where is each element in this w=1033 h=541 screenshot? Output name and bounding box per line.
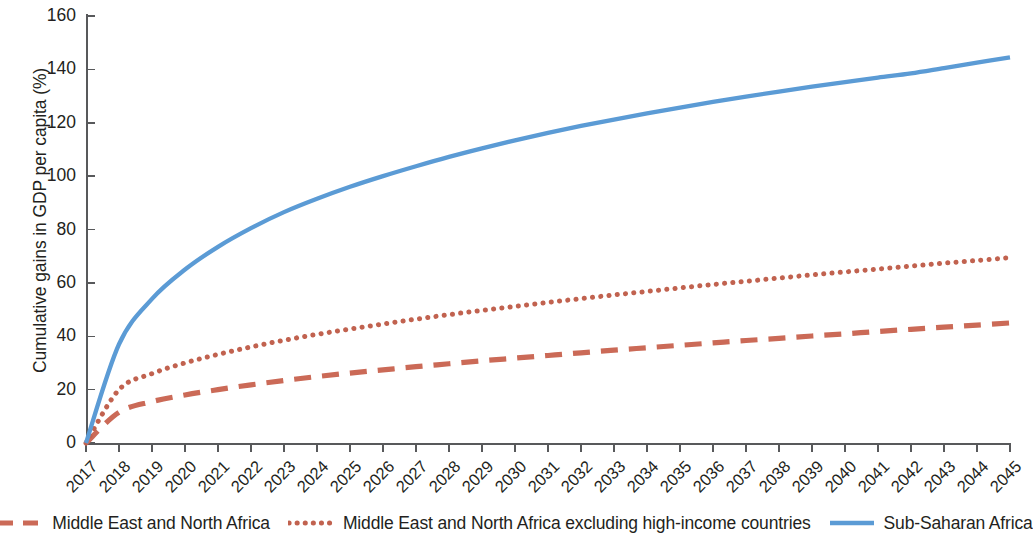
x-tick-2044 bbox=[976, 443, 978, 452]
y-tick-label-100: 100 bbox=[30, 165, 76, 186]
series-line-2 bbox=[86, 57, 1010, 443]
dashed-line-swatch bbox=[0, 516, 43, 530]
x-tick-2038 bbox=[778, 443, 780, 452]
x-tick-2017 bbox=[85, 443, 87, 452]
x-tick-2030 bbox=[514, 443, 516, 452]
y-tick-label-160: 160 bbox=[30, 5, 76, 26]
dotted-line-swatch bbox=[288, 516, 334, 530]
y-tick-label-140: 140 bbox=[30, 58, 76, 79]
legend-label-0: Middle East and North Africa bbox=[52, 513, 270, 534]
x-tick-2025 bbox=[349, 443, 351, 452]
y-tick-40 bbox=[86, 336, 95, 338]
legend-item-0[interactable]: Middle East and North Africa bbox=[0, 513, 270, 534]
y-tick-160 bbox=[86, 15, 95, 17]
x-tick-2045 bbox=[1009, 443, 1011, 452]
x-tick-2042 bbox=[910, 443, 912, 452]
legend-label-1: Middle East and North Africa excluding h… bbox=[343, 513, 811, 534]
x-tick-2035 bbox=[679, 443, 681, 452]
y-tick-60 bbox=[86, 282, 95, 284]
y-tick-80 bbox=[86, 229, 95, 231]
y-tick-0 bbox=[86, 442, 95, 444]
legend-item-2[interactable]: Sub-Saharan Africa bbox=[829, 513, 1033, 534]
y-tick-100 bbox=[86, 175, 95, 177]
solid-line-swatch bbox=[829, 516, 875, 530]
legend-label-2: Sub-Saharan Africa bbox=[884, 513, 1033, 534]
x-tick-2032 bbox=[580, 443, 582, 452]
y-tick-label-0: 0 bbox=[30, 432, 76, 453]
x-tick-2019 bbox=[151, 443, 153, 452]
x-tick-2024 bbox=[316, 443, 318, 452]
y-tick-label-60: 60 bbox=[30, 272, 76, 293]
x-tick-2022 bbox=[250, 443, 252, 452]
x-tick-2026 bbox=[382, 443, 384, 452]
x-tick-2020 bbox=[184, 443, 186, 452]
x-tick-2023 bbox=[283, 443, 285, 452]
x-tick-2034 bbox=[646, 443, 648, 452]
legend-item-1[interactable]: Middle East and North Africa excluding h… bbox=[288, 513, 811, 534]
series-line-1 bbox=[86, 258, 1010, 443]
x-tick-2028 bbox=[448, 443, 450, 452]
x-tick-2039 bbox=[811, 443, 813, 452]
y-tick-label-120: 120 bbox=[30, 112, 76, 133]
x-tick-2021 bbox=[217, 443, 219, 452]
series-line-0 bbox=[86, 323, 1010, 443]
x-tick-2040 bbox=[844, 443, 846, 452]
y-tick-140 bbox=[86, 69, 95, 71]
x-tick-2027 bbox=[415, 443, 417, 452]
x-tick-2041 bbox=[877, 443, 879, 452]
y-tick-20 bbox=[86, 389, 95, 391]
x-tick-2033 bbox=[613, 443, 615, 452]
y-tick-120 bbox=[86, 122, 95, 124]
x-tick-2018 bbox=[118, 443, 120, 452]
chart-legend: Middle East and North AfricaMiddle East … bbox=[0, 505, 1030, 541]
x-tick-2031 bbox=[547, 443, 549, 452]
y-tick-label-20: 20 bbox=[30, 379, 76, 400]
x-tick-2036 bbox=[712, 443, 714, 452]
x-tick-2043 bbox=[943, 443, 945, 452]
y-tick-label-80: 80 bbox=[30, 219, 76, 240]
x-tick-2029 bbox=[481, 443, 483, 452]
y-tick-label-40: 40 bbox=[30, 325, 76, 346]
x-tick-2037 bbox=[745, 443, 747, 452]
